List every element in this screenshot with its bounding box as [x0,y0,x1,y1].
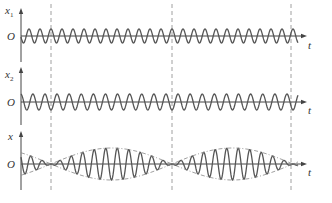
panel3-y-arrow-icon [19,131,23,137]
panel2-origin: O [7,97,15,108]
panel2-t-label: t [308,105,311,116]
panel1-x-arrow-icon [301,34,307,38]
panel3-ylabel: x [8,131,13,142]
panel3-t-label: t [308,167,311,178]
panel3-x-arrow-icon [301,162,307,166]
panel1-ylabel: x1 [5,5,13,19]
beats-figure: x1 O t x2 O t x O t [0,0,332,203]
plot-canvas [0,0,332,203]
panel3-origin: O [7,159,15,170]
panel1-t-label: t [308,40,311,51]
panel2-y-arrow-icon [19,67,23,73]
panel1-origin: O [7,31,15,42]
upper-envelope [21,148,298,164]
panel2-ylabel: x2 [5,69,13,83]
panel1-y-arrow-icon [19,8,23,14]
panel2-x-arrow-icon [301,100,307,104]
